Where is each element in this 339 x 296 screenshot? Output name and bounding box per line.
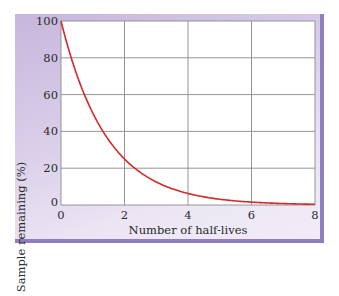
y-tick-label: 80	[28, 52, 58, 64]
x-tick-label: 8	[305, 209, 325, 221]
y-tick-label: 100	[28, 15, 58, 27]
x-tick-label: 2	[115, 209, 135, 221]
y-tick-label: 60	[28, 89, 58, 101]
x-axis-label: Number of half-lives	[61, 223, 315, 237]
y-tick-label: 40	[28, 125, 58, 137]
x-tick-label: 4	[178, 209, 198, 221]
y-tick-label: 20	[28, 162, 58, 174]
y-tick-label: 0	[28, 196, 58, 208]
x-tick-label: 6	[242, 209, 262, 221]
x-tick-label: 0	[51, 209, 71, 221]
